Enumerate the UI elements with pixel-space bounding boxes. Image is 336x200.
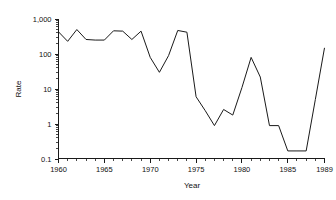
y-axis-ticks [55, 19, 59, 159]
x-axis-title: Year [184, 181, 201, 190]
y-axis-tick-labels: 1,0001001010.1 [33, 15, 52, 164]
y-tick-label-1: 100 [39, 50, 52, 59]
y-tick-label-0: 1,000 [33, 15, 52, 24]
x-axis-ticks [59, 159, 325, 163]
y-tick-label-2: 10 [43, 85, 51, 94]
x-axis-group: 1960196519701975198019851989 Year [50, 159, 333, 191]
series-group [59, 30, 325, 151]
x-tick-label-2: 1970 [142, 165, 159, 174]
rate-by-year-chart: 1,0001001010.1 Rate 19601965197019751980… [0, 0, 336, 200]
x-tick-label-0: 1960 [50, 165, 67, 174]
y-axis-group: 1,0001001010.1 Rate [14, 15, 59, 164]
y-axis-title: Rate [14, 80, 23, 97]
x-tick-label-1: 1965 [96, 165, 113, 174]
x-tick-label-4: 1980 [234, 165, 251, 174]
x-axis-tick-labels: 1960196519701975198019851989 [50, 165, 333, 174]
x-tick-label-5: 1985 [279, 165, 296, 174]
x-tick-label-6: 1989 [316, 165, 333, 174]
y-tick-label-4: 0.1 [41, 155, 51, 164]
x-tick-label-3: 1975 [188, 165, 205, 174]
chart-canvas: 1,0001001010.1 Rate 19601965197019751980… [0, 0, 336, 200]
y-tick-label-3: 1 [47, 120, 51, 129]
rate-series-line [59, 30, 325, 151]
